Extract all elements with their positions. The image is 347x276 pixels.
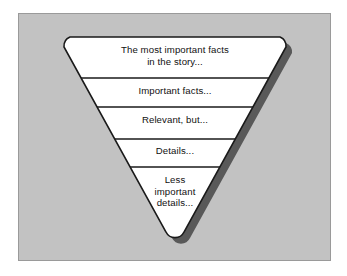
pyramid-outline [64,37,286,238]
figure-canvas: The most important facts in the story...… [0,0,347,276]
inverted-pyramid-diagram [0,0,347,276]
